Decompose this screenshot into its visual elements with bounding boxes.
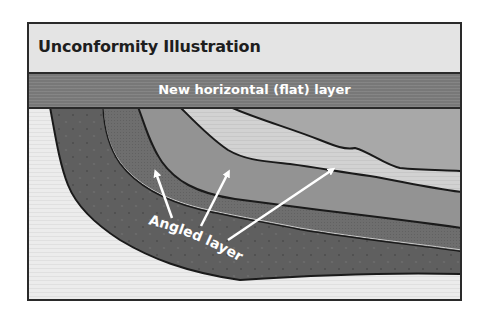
angled-strata-diagram: Angled layers (0, 0, 487, 319)
